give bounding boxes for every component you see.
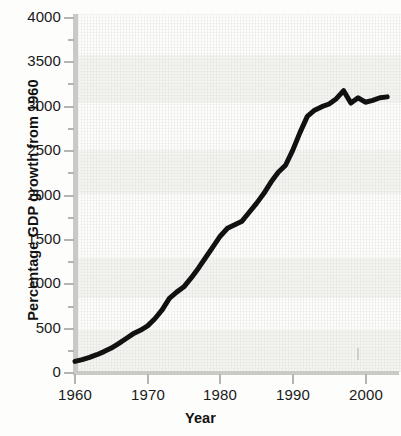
gdp-growth-line	[75, 91, 387, 362]
data-line-svg	[0, 0, 401, 436]
chart-figure: 4000 3500 3000 2500 2000 1500 1000 500 0…	[0, 0, 401, 436]
